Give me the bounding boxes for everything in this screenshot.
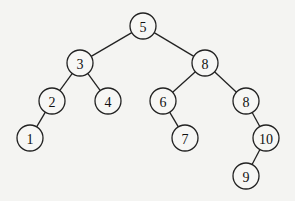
node-label: 4 [105, 95, 112, 110]
tree-node: 9 [233, 163, 259, 189]
tree-node: 4 [95, 88, 121, 114]
tree-edge-n5-n3 [91, 33, 132, 57]
tree-node: 7 [172, 125, 198, 151]
tree-edge-n8a-n8b [215, 72, 237, 92]
node-label: 3 [77, 57, 84, 72]
node-label: 7 [182, 132, 189, 147]
tree-edges [37, 33, 260, 165]
node-label: 2 [49, 95, 56, 110]
node-label: 10 [259, 132, 273, 147]
tree-node: 2 [39, 88, 65, 114]
tree-edge-n8a-n6 [173, 72, 196, 93]
tree-edge-n5-n8a [154, 33, 194, 57]
node-label: 6 [160, 95, 167, 110]
tree-edge-n10-n9 [252, 150, 260, 165]
node-label: 5 [140, 20, 147, 35]
tree-node: 8 [233, 88, 259, 114]
tree-edge-n3-n4 [88, 73, 101, 90]
tree-edge-n2-n1 [37, 112, 46, 127]
binary-tree-diagram: 538246817109 [0, 0, 295, 201]
tree-node: 8 [192, 50, 218, 76]
tree-nodes: 538246817109 [17, 13, 279, 189]
node-label: 9 [243, 170, 250, 185]
tree-node: 3 [67, 50, 93, 76]
tree-edge-n8b-n10 [252, 112, 260, 126]
tree-node: 1 [17, 125, 43, 151]
tree-node: 10 [253, 125, 279, 151]
tree-edge-n3-n2 [60, 73, 73, 90]
node-label: 8 [202, 57, 209, 72]
tree-edge-n6-n7 [170, 112, 179, 127]
node-label: 8 [243, 95, 250, 110]
tree-node: 6 [150, 88, 176, 114]
tree-node: 5 [130, 13, 156, 39]
node-label: 1 [27, 132, 34, 147]
